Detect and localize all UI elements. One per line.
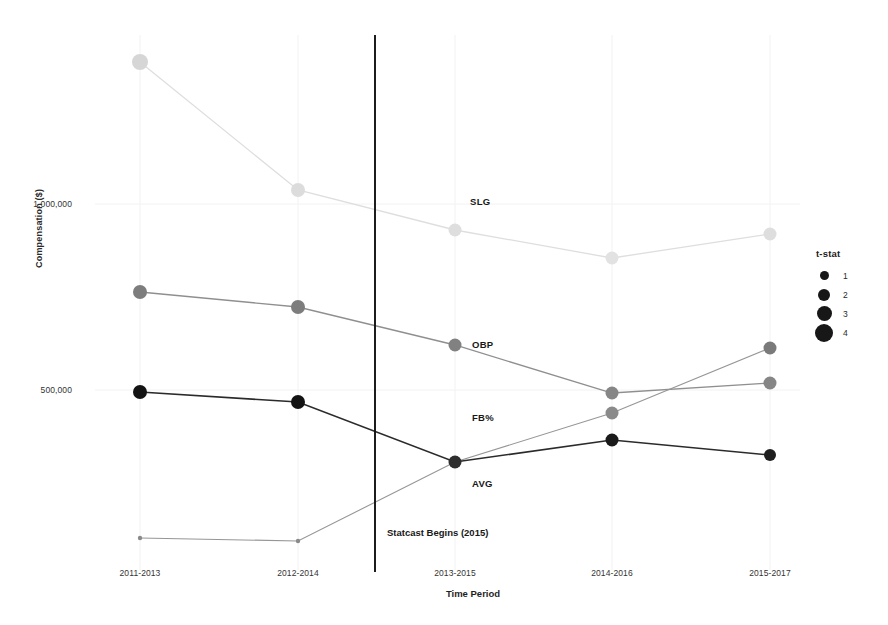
legend-circle-icon-3 (817, 306, 832, 321)
legend-dot-2-wrap (814, 289, 834, 301)
legend-circle-icon-1 (820, 271, 829, 280)
data-point-fb-pct-2011-2013[interactable] (138, 536, 142, 540)
data-point-avg-2011-2013[interactable] (133, 385, 147, 399)
legend-label-1: 1 (843, 271, 848, 281)
data-point-slg-2013-2015[interactable] (449, 224, 462, 237)
statcast-annotation: Statcast Begins (2015) (387, 527, 488, 538)
x-tick-label-2013-2015: 2013-2015 (400, 568, 510, 578)
data-point-fb-pct-2012-2014[interactable] (296, 539, 300, 543)
chart-container: Compensation ($) 1,000,000 500,000 (0, 0, 888, 625)
x-tick-label-2011-2013: 2011-2013 (85, 568, 195, 578)
data-point-avg-2015-2017[interactable] (764, 449, 776, 461)
legend-item-2[interactable]: 2 (814, 285, 882, 304)
data-point-fb-pct-2014-2016[interactable] (606, 407, 619, 420)
data-point-slg-2015-2017[interactable] (764, 228, 777, 241)
series-line-slg (132, 54, 777, 265)
legend: t-stat 1 2 3 4 (812, 248, 882, 342)
x-tick-label-2012-2014: 2012-2014 (243, 568, 353, 578)
gridlines (95, 35, 800, 570)
data-point-slg-2011-2013[interactable] (132, 54, 148, 70)
legend-circle-icon-2 (818, 289, 830, 301)
legend-item-4[interactable]: 4 (814, 323, 882, 342)
data-point-avg-2014-2016[interactable] (606, 434, 619, 447)
data-point-avg-2013-2015[interactable] (449, 456, 462, 469)
series-label-obp: OBP (472, 339, 494, 350)
data-point-obp-2015-2017[interactable] (764, 377, 777, 390)
data-point-obp-2012-2014[interactable] (291, 300, 305, 314)
legend-label-3: 3 (843, 309, 848, 319)
legend-dot-3-wrap (814, 306, 834, 321)
data-point-obp-2013-2015[interactable] (449, 339, 462, 352)
series-label-fb-pct: FB% (472, 412, 494, 423)
x-tick-label-2014-2016: 2014-2016 (557, 568, 667, 578)
x-tick-label-2015-2017: 2015-2017 (715, 568, 825, 578)
data-point-obp-2014-2016[interactable] (606, 387, 619, 400)
data-point-obp-2011-2013[interactable] (133, 285, 147, 299)
legend-item-1[interactable]: 1 (814, 266, 882, 285)
legend-dot-1-wrap (814, 271, 834, 280)
series-label-avg: AVG (472, 478, 493, 489)
data-point-avg-2012-2014[interactable] (291, 395, 305, 409)
data-point-fb-pct-2015-2017[interactable] (764, 342, 777, 355)
x-axis-label: Time Period (403, 588, 543, 599)
legend-label-2: 2 (843, 290, 848, 300)
legend-dot-4-wrap (814, 324, 834, 342)
legend-title: t-stat (816, 248, 882, 259)
data-point-slg-2012-2014[interactable] (291, 183, 305, 197)
legend-label-4: 4 (843, 328, 848, 338)
legend-item-3[interactable]: 3 (814, 304, 882, 323)
data-point-slg-2014-2016[interactable] (606, 252, 619, 265)
series-label-slg: SLG (470, 196, 490, 207)
legend-circle-icon-4 (815, 324, 833, 342)
series-line-fb-pct (138, 342, 777, 544)
